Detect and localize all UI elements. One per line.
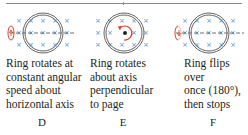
svg-text:×: × [143,41,149,49]
ring-in-field-diagram-d: ××××× ××××× ××××× [0,0,82,56]
svg-text:×: × [206,17,212,25]
panel-e: ××××× ×××× ××××× Ring rotates about axis… [82,0,164,135]
svg-text:×: × [64,17,70,25]
svg-text:×: × [206,41,212,49]
svg-text:×: × [119,17,125,25]
svg-text:×: × [16,17,22,25]
ring-in-field-diagram-e: ××××× ×××× ××××× [82,0,164,56]
caption-f: Ring flips over once (180°), then stops [184,57,246,111]
svg-text:×: × [40,41,46,49]
svg-text:×: × [143,17,149,25]
svg-text:×: × [95,17,101,25]
svg-text:×: × [182,17,188,25]
svg-text:×: × [95,41,101,49]
svg-text:×: × [95,29,101,37]
svg-text:×: × [64,41,70,49]
ring-in-field-diagram-f: ××××× ××××× ××××× [164,0,248,56]
svg-text:×: × [16,41,22,49]
panel-label-e: E [113,116,133,128]
panel-f: ××××× ××××× ××××× Ring flips over once (… [164,0,246,135]
panel-d: ××××× ××××× ××××× Ring rotates at consta… [0,0,82,135]
svg-text:×: × [182,41,188,49]
panel-label-f: F [203,116,223,128]
svg-text:×: × [119,41,125,49]
svg-text:×: × [230,41,236,49]
caption-e: Ring rotates about axis perpendicular to… [90,57,153,111]
svg-text:×: × [107,29,113,37]
panel-label-d: D [32,116,52,128]
svg-text:×: × [40,17,46,25]
caption-d: Ring rotates at constant angular speed a… [6,57,82,111]
svg-text:×: × [230,17,236,25]
